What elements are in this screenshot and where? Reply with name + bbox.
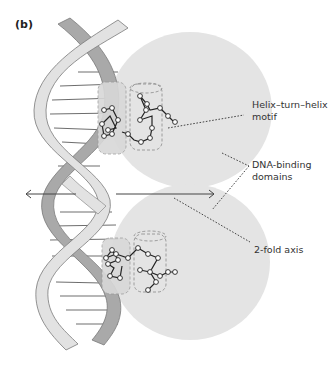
hth-motif-label-line2: motif — [252, 111, 328, 123]
dna-binding-domains — [108, 32, 272, 340]
lower-domain — [110, 184, 270, 340]
dna-double-helix — [34, 18, 128, 350]
dbd-label-line2: domains — [252, 171, 312, 183]
panel-label: (b) — [15, 18, 33, 31]
two-fold-axis-label: 2-fold axis — [254, 244, 303, 256]
hth-motif-label: Helix–turn–helix motif — [252, 99, 328, 123]
dna-binding-domains-label: DNA-binding domains — [252, 159, 312, 183]
hth-motif-label-line1: Helix–turn–helix — [252, 99, 328, 111]
dbd-label-line1: DNA-binding — [252, 159, 312, 171]
upper-domain — [108, 32, 272, 188]
